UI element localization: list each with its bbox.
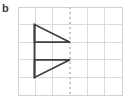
figure-panel: b xyxy=(0,0,133,102)
reflection-diagram xyxy=(0,0,133,102)
